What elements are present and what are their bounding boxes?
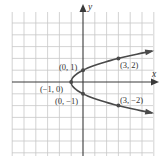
x-axis-label: x xyxy=(151,69,157,79)
label-neg1-0: (−1, 0) xyxy=(40,84,63,94)
y-axis-arrow-icon xyxy=(80,4,87,12)
curve-arrow-icon xyxy=(145,49,154,55)
label-3-neg2: (3, −2) xyxy=(120,95,143,105)
data-point xyxy=(81,92,85,96)
label-0-neg1: (0, −1) xyxy=(55,96,78,106)
x-axis-arrow-icon xyxy=(151,79,159,86)
curve-arrow-icon xyxy=(145,109,154,115)
data-point xyxy=(69,80,73,84)
y-axis-label: y xyxy=(87,2,93,12)
parabola-graph: x y (0, 1) (3, 2) (−1, 0) (0, −1) (3, −2… xyxy=(0,0,168,162)
axes: x y xyxy=(12,2,159,156)
label-0-1: (0, 1) xyxy=(59,62,78,72)
label-3-2: (3, 2) xyxy=(120,60,139,70)
data-point xyxy=(81,68,85,72)
